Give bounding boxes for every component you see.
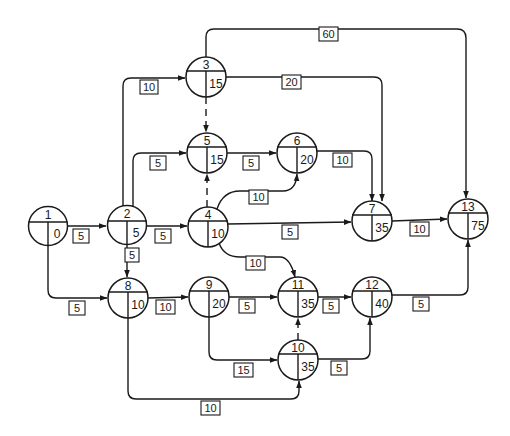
label-11-12: 5 xyxy=(323,299,339,313)
label-2-4: 5 xyxy=(155,229,171,243)
label-4-7: 5 xyxy=(282,225,298,239)
node-11: 11 35 xyxy=(278,277,318,317)
node-1-id: 1 xyxy=(45,208,52,222)
label-3-13: 60 xyxy=(319,27,338,41)
label-1-2: 5 xyxy=(73,229,89,243)
node-1: 1 0 xyxy=(29,207,68,246)
node-4: 4 10 xyxy=(188,207,228,247)
node-13-value: 75 xyxy=(471,219,485,233)
label-6-7: 10 xyxy=(333,153,352,167)
svg-text:10: 10 xyxy=(249,257,261,269)
node-3: 3 15 xyxy=(186,57,226,97)
edge-10-12 xyxy=(318,318,370,359)
svg-text:10: 10 xyxy=(159,301,171,313)
node-2-value: 5 xyxy=(133,226,140,240)
edge-12-13 xyxy=(392,240,468,295)
node-6: 6 20 xyxy=(277,133,317,173)
edge-9-10 xyxy=(209,317,277,360)
svg-text:5: 5 xyxy=(336,362,342,374)
network-diagram: 5 5 10 5 5 5 60 20 5 10 10 5 10 10 10 10… xyxy=(0,0,510,436)
label-4-11: 10 xyxy=(246,256,265,270)
svg-text:5: 5 xyxy=(78,230,84,242)
node-4-id: 4 xyxy=(205,208,212,222)
label-4-6: 10 xyxy=(249,190,268,204)
node-10: 10 35 xyxy=(278,340,318,380)
node-12-id: 12 xyxy=(365,278,379,292)
label-1-8: 5 xyxy=(69,301,85,315)
node-13-id: 13 xyxy=(461,200,475,214)
node-5: 5 15 xyxy=(187,133,227,173)
edge-8-9 xyxy=(148,297,188,298)
label-8-10: 10 xyxy=(201,401,220,415)
svg-text:5: 5 xyxy=(160,230,166,242)
svg-text:10: 10 xyxy=(252,191,264,203)
svg-text:5: 5 xyxy=(129,249,135,261)
node-5-value: 15 xyxy=(210,153,224,167)
node-5-id: 5 xyxy=(204,134,211,148)
svg-text:10: 10 xyxy=(336,154,348,166)
label-10-12: 5 xyxy=(331,361,347,375)
node-9-value: 20 xyxy=(212,297,226,311)
node-12: 12 40 xyxy=(352,277,392,317)
node-1-value: 0 xyxy=(54,227,61,241)
edge-1-8 xyxy=(48,245,107,298)
node-2: 2 5 xyxy=(108,206,147,245)
node-6-id: 6 xyxy=(294,134,301,148)
node-10-id: 10 xyxy=(291,341,305,355)
node-8-value: 10 xyxy=(131,298,145,312)
node-7: 7 35 xyxy=(352,201,392,241)
svg-text:5: 5 xyxy=(244,300,250,312)
node-8: 8 10 xyxy=(108,278,148,318)
edge-3-13 xyxy=(206,29,466,198)
svg-text:5: 5 xyxy=(418,298,424,310)
label-5-6: 5 xyxy=(243,156,259,170)
node-11-id: 11 xyxy=(292,278,305,292)
node-7-value: 35 xyxy=(375,221,389,235)
svg-text:10: 10 xyxy=(204,402,216,414)
node-7-id: 7 xyxy=(369,202,376,216)
edge-8-10 xyxy=(128,318,299,399)
label-9-10: 15 xyxy=(234,363,253,377)
label-12-13: 5 xyxy=(413,297,429,311)
label-7-13: 10 xyxy=(410,222,429,236)
svg-text:5: 5 xyxy=(155,157,161,169)
label-2-3: 10 xyxy=(140,80,158,94)
node-9: 9 20 xyxy=(189,277,229,317)
edge-7-13 xyxy=(392,219,447,221)
svg-text:10: 10 xyxy=(143,81,155,93)
svg-text:15: 15 xyxy=(237,364,249,376)
nodes: 1 0 2 5 3 15 4 10 5 15 xyxy=(29,57,489,380)
node-13: 13 75 xyxy=(448,199,488,239)
node-12-value: 40 xyxy=(375,297,389,311)
svg-text:5: 5 xyxy=(328,300,334,312)
node-3-value: 15 xyxy=(209,77,223,91)
label-8-9: 10 xyxy=(156,300,175,314)
label-2-8: 5 xyxy=(125,248,139,262)
node-3-id: 3 xyxy=(203,58,210,72)
svg-text:20: 20 xyxy=(285,76,297,88)
svg-text:5: 5 xyxy=(287,226,293,238)
node-9-id: 9 xyxy=(206,278,213,292)
svg-text:60: 60 xyxy=(322,28,334,40)
node-8-id: 8 xyxy=(125,279,132,293)
node-6-value: 20 xyxy=(300,153,314,167)
edge-4-7 xyxy=(228,222,351,224)
label-9-11: 5 xyxy=(239,299,255,313)
node-4-value: 10 xyxy=(211,227,225,241)
node-10-value: 35 xyxy=(301,360,315,374)
node-11-value: 35 xyxy=(301,297,315,311)
svg-text:10: 10 xyxy=(413,223,425,235)
svg-text:5: 5 xyxy=(74,302,80,314)
svg-text:5: 5 xyxy=(248,157,254,169)
label-2-5: 5 xyxy=(150,156,166,170)
label-3-7: 20 xyxy=(282,75,301,89)
node-2-id: 2 xyxy=(124,207,131,221)
